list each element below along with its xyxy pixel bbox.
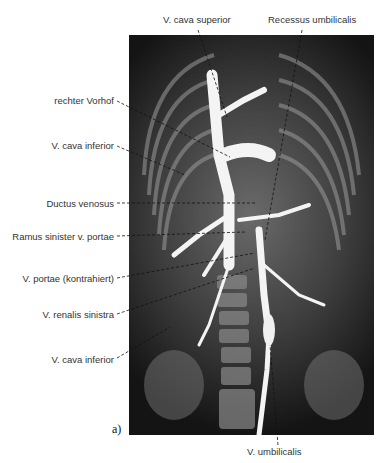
label-v-portae-kontrahiert: V. portae (kontrahiert)	[22, 273, 114, 284]
label-rechter-vorhof: rechter Vorhof	[54, 95, 114, 106]
label-v-cava-inferior-upper: V. cava inferior	[52, 140, 115, 151]
panel-label: a)	[112, 422, 121, 437]
label-v-cava-superior: V. cava superior	[163, 14, 231, 25]
label-ramus-sinister-v-portae: Ramus sinister v. portae	[12, 231, 114, 242]
label-recessus-umbilicalis: Recessus umbilicalis	[268, 14, 356, 25]
label-v-umbilicalis: V. umbilicalis	[247, 446, 302, 457]
label-ductus-venosus: Ductus venosus	[46, 198, 114, 209]
label-v-cava-inferior-lower: V. cava inferior	[52, 354, 115, 365]
label-v-renalis-sinistra: V. renalis sinistra	[43, 309, 114, 320]
